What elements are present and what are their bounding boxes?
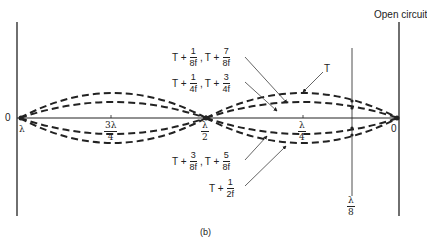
figure-caption: (b) — [200, 228, 211, 237]
node-right-label: 0 — [391, 124, 397, 134]
node-left — [19, 116, 24, 121]
time-label-upper-inner: T + 14f , T + 34f — [172, 73, 231, 94]
wave-left-outer-upper — [20, 93, 206, 118]
arrow-lower-outer — [245, 146, 286, 186]
wave-left-inner-upper — [20, 102, 206, 118]
label-lambda-over-8: λ8 — [346, 196, 356, 217]
arrow-upper-outer — [245, 57, 287, 103]
node-right — [395, 116, 400, 121]
open-circuit-label: Open circuit — [374, 10, 427, 20]
standing-wave-diagram — [0, 0, 427, 243]
time-label-lower-inner: T + 38f , T + 58f — [172, 151, 231, 172]
arrow-peak-T — [303, 72, 323, 92]
label-3lambda-over-4: 3λ4 — [103, 121, 118, 142]
time-label-lower-outer: T + 12f — [209, 178, 235, 199]
label-lambda-over-4: λ4 — [297, 121, 307, 142]
node-left-label: 0 — [5, 113, 11, 123]
arrow-lower-inner — [245, 136, 267, 160]
time-label-peak: T — [324, 64, 330, 74]
label-lambda-over-2: λ2 — [200, 121, 210, 142]
wave-right-outer-upper — [206, 93, 398, 118]
time-label-upper-outer: T + 18f , T + 78f — [172, 47, 231, 68]
lambda-label: λ — [19, 125, 25, 134]
